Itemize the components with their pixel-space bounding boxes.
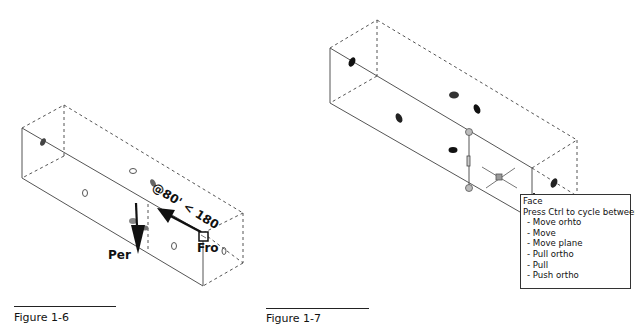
figure-caption-1-7: Figure 1-7 (266, 312, 321, 325)
hole-icon (449, 92, 459, 99)
tooltip-option: - Push ortho (523, 270, 628, 281)
face-tooltip: Face Press Ctrl to cycle between: - Move… (520, 194, 631, 289)
grip-icon (466, 129, 473, 136)
tooltip-instruction: Press Ctrl to cycle between: (523, 207, 628, 218)
figure-caption-1-6: Figure 1-6 (14, 311, 69, 324)
tooltip-option: - Move (523, 228, 628, 239)
midpoint-grip-icon (467, 156, 470, 166)
tooltip-option: - Pull (523, 260, 628, 271)
hole-icon (449, 147, 458, 153)
tooltip-option: - Pull ortho (523, 249, 628, 260)
hole-icon (394, 112, 404, 124)
caption-rule (266, 308, 369, 309)
hole-icon (347, 56, 357, 68)
tooltip-option: - Move plane (523, 238, 628, 249)
tooltip-option: - Move orhto (523, 217, 628, 228)
grip-icon (466, 185, 473, 192)
hole-icon (472, 103, 482, 115)
tooltip-title: Face (523, 196, 628, 207)
hole-icon (549, 177, 559, 189)
caption-rule (14, 306, 116, 307)
